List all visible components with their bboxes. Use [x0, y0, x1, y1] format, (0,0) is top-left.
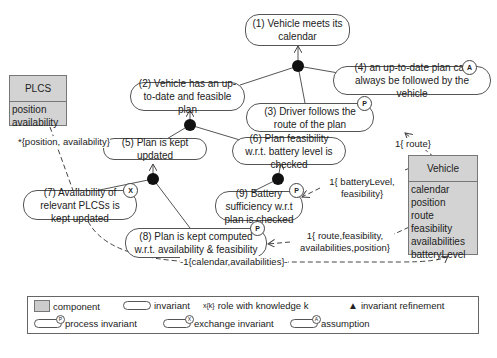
attribute: position [411, 196, 475, 209]
invariant-7: (7) Availability of relevant PLCSs is ke… [23, 190, 137, 220]
process-invariant-icon: P [34, 319, 62, 328]
role-label: -1{calendar,availabilities}- [180, 256, 288, 268]
role-label: *{position, availability} [18, 136, 110, 148]
assumption-badge: A [462, 60, 477, 75]
component-plcs: PLCS position availability [9, 75, 67, 126]
exchange-badge: X [123, 183, 138, 198]
role-label: 1{ route,feasibility, availabilities,pos… [296, 230, 394, 254]
assumption-icon: A [290, 319, 318, 328]
process-badge: P [289, 183, 304, 198]
attribute: calendar [411, 183, 475, 196]
exchange-invariant-icon: X [163, 319, 191, 328]
component-icon [34, 300, 50, 312]
process-badge: P [250, 221, 265, 236]
refinement-icon: ▲ [348, 300, 358, 311]
component-title: PLCS [10, 76, 66, 102]
invariant-5: (5) Plan is kept updated [103, 138, 207, 160]
attribute: availability [12, 116, 64, 129]
refinement-node-1 [292, 60, 304, 72]
invariant-1: (1) Vehicle meets its calendar [245, 14, 350, 46]
role-label: 1{ batteryLevel, feasibility} [325, 176, 399, 200]
attribute: position [12, 103, 64, 116]
attribute: availabilities [411, 235, 475, 248]
role-label: 1{ route} [395, 138, 431, 150]
component-title: Vehicle [409, 156, 477, 182]
invariant-2: (2) Vehicle has an up-to-date and feasib… [130, 82, 245, 111]
attribute: batteryLevel [411, 248, 475, 261]
invariant-8: (8) Plan is kept computed w.r.t. availab… [125, 228, 267, 258]
attribute: route [411, 209, 475, 222]
legend: component invariant x{k}role with knowle… [27, 296, 479, 334]
invariant-icon [123, 301, 151, 310]
component-vehicle: Vehicle calendar position route feasibil… [408, 155, 478, 255]
invariant-3: (3) Driver follows the route of the plan [246, 103, 374, 132]
invariant-6: (6) Plan feasibility w.r.t. battery leve… [232, 137, 346, 165]
invariant-9: (9) Battery sufficiency w.r.t plan is ch… [215, 191, 303, 221]
process-badge: P [357, 96, 372, 111]
attribute: feasibility [411, 222, 475, 235]
role-icon: x{k} [203, 302, 215, 309]
